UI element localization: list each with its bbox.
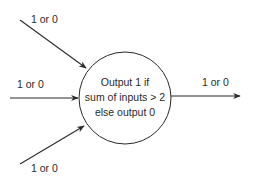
input-label-top: 1 or 0 [31, 13, 58, 25]
input-label-bottom: 1 or 0 [31, 162, 58, 174]
node-text-line-3: else output 0 [95, 106, 155, 118]
input-arrow-top [20, 20, 86, 68]
neuron-diagram: 1 or 0 1 or 0 1 or 0 1 or 0 Output 1 if … [0, 0, 253, 183]
output-label: 1 or 0 [202, 76, 229, 88]
input-arrow-bottom [20, 126, 84, 164]
node-text-line-2: sum of inputs > 2 [85, 91, 165, 103]
node-text-line-1: Output 1 if [101, 76, 150, 88]
input-label-middle: 1 or 0 [17, 78, 44, 90]
